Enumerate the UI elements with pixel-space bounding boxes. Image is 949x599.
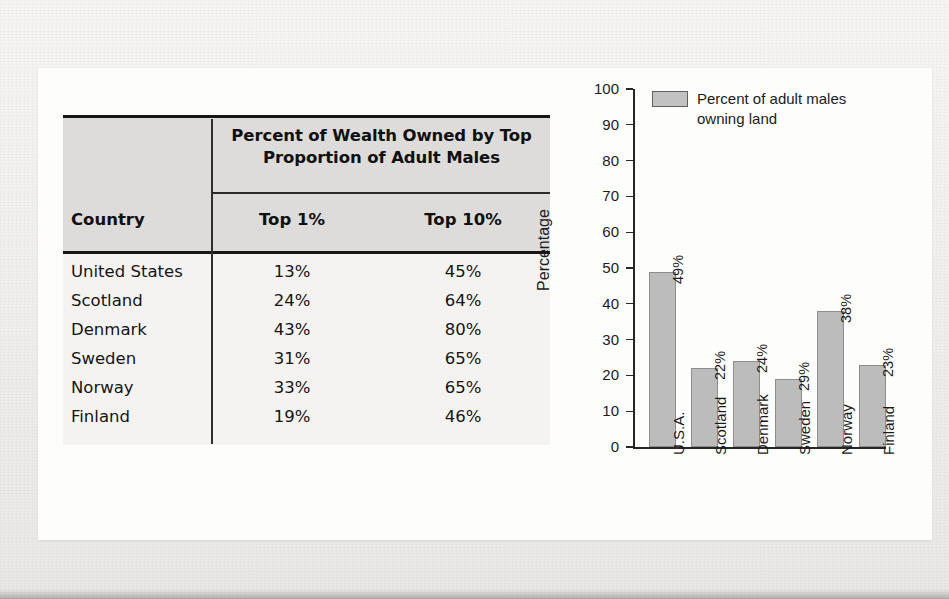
y-axis-tick-label: 0	[585, 438, 619, 455]
x-axis-category-label: Sweden	[796, 401, 813, 455]
y-axis-tick-label: 100	[585, 80, 619, 97]
table-cell-top10: 65%	[383, 349, 543, 368]
wealth-distribution-table: Percent of Wealth Owned by Top Proportio…	[63, 115, 550, 445]
table-cell-country: Sweden	[71, 349, 136, 368]
table-column-header-country: Country	[71, 210, 145, 229]
y-axis-tick-label: 70	[585, 187, 619, 204]
y-axis-tick-label: 10	[585, 402, 619, 419]
y-axis-tick-mark	[626, 411, 633, 412]
table-cell-top10: 46%	[383, 407, 543, 426]
table-cell-top1: 33%	[213, 378, 371, 397]
table-header-midrule	[211, 192, 550, 194]
table-header-bottom-rule	[63, 251, 550, 254]
y-axis-tick-mark	[626, 339, 633, 340]
y-axis-tick-label: 40	[585, 295, 619, 312]
table-cell-country: United States	[71, 262, 183, 281]
table-row: United States 13% 45%	[63, 262, 550, 291]
y-axis-tick-label: 30	[585, 331, 619, 348]
chart-bar-value-label: 23%	[880, 348, 896, 377]
land-ownership-bar-chart: Percentage 0102030405060708090100 49%22%…	[536, 73, 926, 533]
x-axis-category-label: U.S.A.	[670, 412, 687, 455]
legend-color-swatch	[652, 91, 688, 107]
y-axis-tick-mark	[626, 446, 633, 447]
y-axis-tick-label: 80	[585, 152, 619, 169]
y-axis-tick-mark	[626, 88, 633, 89]
table-spanning-header: Percent of Wealth Owned by Top Proportio…	[213, 125, 550, 170]
legend-label: Percent of adult males owning land	[697, 89, 846, 128]
y-axis-tick-mark	[626, 160, 633, 161]
y-axis-tick-mark	[626, 303, 633, 304]
y-axis-tick-mark	[626, 375, 633, 376]
table-column-header-top1: Top 1%	[213, 210, 371, 229]
table-row: Finland 19% 46%	[63, 407, 550, 436]
x-axis-category-label: Finland	[880, 406, 897, 455]
table-cell-top1: 13%	[213, 262, 371, 281]
y-axis-tick-label: 90	[585, 116, 619, 133]
x-axis-category-label: Denmark	[754, 394, 771, 455]
x-axis-category-label: Norway	[838, 404, 855, 455]
y-axis-tick-label: 20	[585, 366, 619, 383]
table-cell-country: Scotland	[71, 291, 143, 310]
figure-panel: Percent of Wealth Owned by Top Proportio…	[38, 68, 932, 540]
table-column-header-top10: Top 10%	[383, 210, 543, 229]
table-row: Sweden 31% 65%	[63, 349, 550, 378]
table-row: Scotland 24% 64%	[63, 291, 550, 320]
table-row: Denmark 43% 80%	[63, 320, 550, 349]
chart-bar-value-label: 24%	[754, 344, 770, 373]
table-cell-country: Norway	[71, 378, 134, 397]
scanned-page-background: Percent of Wealth Owned by Top Proportio…	[0, 0, 949, 599]
table-cell-country: Finland	[71, 407, 130, 426]
table-cell-top1: 24%	[213, 291, 371, 310]
table-row: Norway 33% 65%	[63, 378, 550, 407]
chart-y-axis-line	[633, 89, 635, 449]
y-axis-tick-label: 60	[585, 223, 619, 240]
table-cell-top10: 65%	[383, 378, 543, 397]
table-cell-top1: 43%	[213, 320, 371, 339]
chart-y-axis-title: Percentage	[535, 209, 553, 291]
chart-bar-value-label: 49%	[670, 255, 686, 284]
y-axis-tick-mark	[626, 267, 633, 268]
y-axis-tick-mark	[626, 124, 633, 125]
y-axis-tick-label: 50	[585, 259, 619, 276]
table-cell-top1: 31%	[213, 349, 371, 368]
table-cell-top1: 19%	[213, 407, 371, 426]
table-cell-top10: 45%	[383, 262, 543, 281]
table-top-rule	[63, 115, 550, 118]
table-cell-top10: 64%	[383, 291, 543, 310]
x-axis-category-label: Scotland	[712, 397, 729, 455]
table-cell-top10: 80%	[383, 320, 543, 339]
chart-bar-value-label: 22%	[712, 351, 728, 380]
table-cell-country: Denmark	[71, 320, 147, 339]
chart-bar-value-label: 29%	[796, 362, 812, 391]
y-axis-tick-mark	[626, 232, 633, 233]
chart-bar-value-label: 38%	[838, 294, 854, 323]
y-axis-tick-mark	[626, 196, 633, 197]
